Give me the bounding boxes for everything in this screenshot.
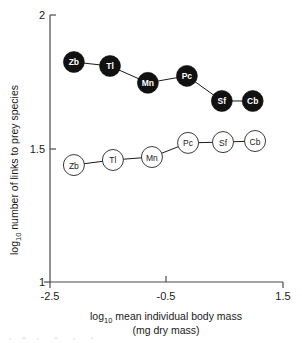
data-point-label-Mn: Mn <box>146 153 158 163</box>
data-point-label-Zb: Zb <box>69 57 79 67</box>
x-axis-title-line1: log10 mean individual body mass <box>90 310 242 325</box>
x-tick-label-minus2-5: -2.5 <box>41 290 60 302</box>
series-2: ZbTlMnPcSfCb <box>63 131 265 176</box>
data-point-label-Pc: Pc <box>182 71 193 81</box>
data-point-label-Cb: Cb <box>250 137 261 147</box>
data-point-label-Zb: Zb <box>69 161 79 171</box>
y-tick-label-2: 2 <box>39 9 45 21</box>
data-point-label-Tl: Tl <box>109 155 116 165</box>
data-point-label-Pc: Pc <box>183 138 194 148</box>
data-point-label-Sf: Sf <box>218 96 227 106</box>
x-tick-label-1-5: 1.5 <box>275 290 290 302</box>
data-series-layer: ZbTlMnPcSfCbZbTlMnPcSfCb <box>63 51 265 175</box>
data-point-label-Sf: Sf <box>219 138 228 148</box>
y-tick-label-1: 1 <box>39 276 45 288</box>
data-point-label-Tl: Tl <box>106 61 114 71</box>
data-point-label-Cb: Cb <box>247 96 258 106</box>
y-tick-label-1-5: 1.5 <box>30 143 45 155</box>
data-point-label-Mn: Mn <box>142 78 154 88</box>
series-1: ZbTlMnPcSfCb <box>63 51 263 111</box>
x-tick-label-minus0-5: -0.5 <box>157 290 176 302</box>
x-axis-title-line2: (mg dry mass) <box>132 324 199 336</box>
chart-figure: log10 number of links to prey species lo… <box>0 0 302 343</box>
scatter-plot-svg: log10 number of links to prey species lo… <box>0 0 302 343</box>
y-axis-title: log10 number of links to prey species <box>8 85 23 255</box>
